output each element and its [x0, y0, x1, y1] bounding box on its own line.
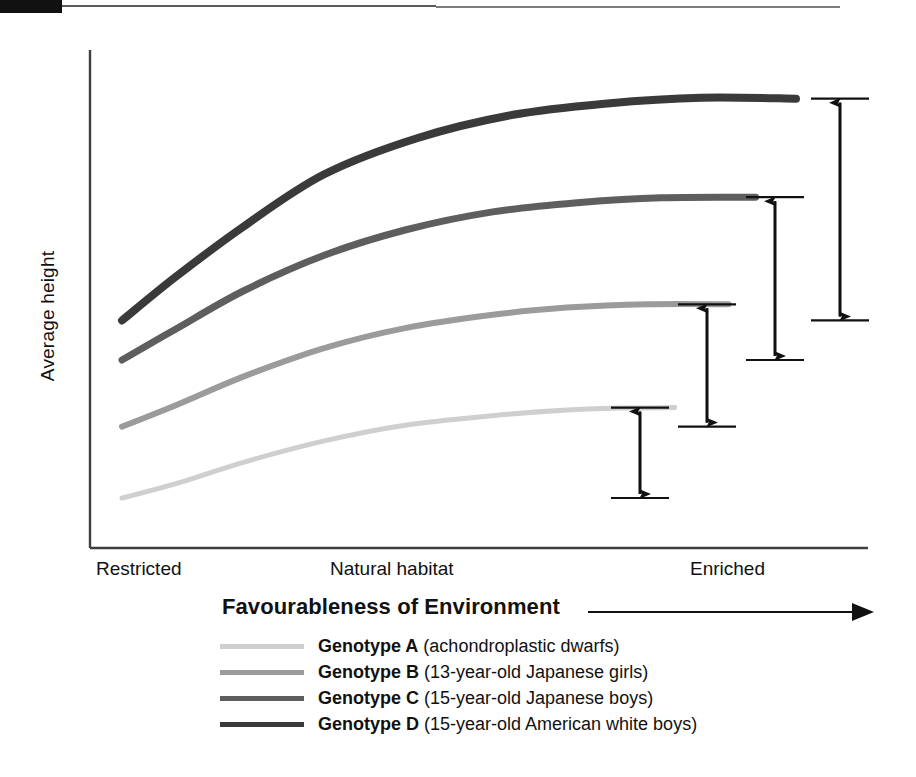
range-genotype-D	[811, 99, 869, 321]
legend-series-name: Genotype C	[318, 688, 419, 708]
x-axis-arrow-icon	[588, 603, 874, 621]
legend-swatch-icon	[220, 644, 304, 649]
range-annotation-layer	[611, 99, 869, 498]
chart-page: Average height Restricted Natural habita…	[0, 0, 916, 777]
range-genotype-B	[678, 304, 736, 426]
series-line-genotype-c	[122, 197, 756, 360]
legend-swatch-icon	[220, 696, 304, 701]
legend-swatch-icon	[220, 670, 304, 675]
legend-label: Genotype B (13-year-old Japanese girls)	[318, 662, 648, 683]
legend-series-name: Genotype D	[318, 714, 419, 734]
legend-series-description: (15-year-old Japanese boys)	[419, 688, 653, 708]
legend-item-genotype-c: Genotype C (15-year-old Japanese boys)	[220, 686, 860, 710]
legend-label: Genotype A (achondroplastic dwarfs)	[318, 636, 619, 657]
legend-label: Genotype D (15-year-old American white b…	[318, 714, 697, 735]
range-genotype-A	[611, 408, 669, 498]
series-line-genotype-a	[122, 408, 675, 498]
legend-series-name: Genotype A	[318, 636, 418, 656]
legend-item-genotype-d: Genotype D (15-year-old American white b…	[220, 712, 860, 736]
series-layer	[122, 97, 796, 498]
legend-label: Genotype C (15-year-old Japanese boys)	[318, 688, 653, 709]
legend-series-description: (13-year-old Japanese girls)	[419, 662, 648, 682]
legend-item-genotype-a: Genotype A (achondroplastic dwarfs)	[220, 634, 860, 658]
legend-series-description: (15-year-old American white boys)	[419, 714, 697, 734]
legend-series-description: (achondroplastic dwarfs)	[418, 636, 619, 656]
legend-item-genotype-b: Genotype B (13-year-old Japanese girls)	[220, 660, 860, 684]
x-tick-label-natural-habitat: Natural habitat	[330, 558, 454, 580]
y-axis-label: Average height	[37, 206, 59, 426]
chart-legend: Genotype A (achondroplastic dwarfs)Genot…	[220, 634, 860, 738]
x-axis-title: Favourableness of Environment	[222, 594, 560, 620]
x-tick-label-enriched: Enriched	[690, 558, 765, 580]
series-line-genotype-d	[122, 97, 796, 320]
range-genotype-C	[746, 197, 804, 360]
legend-swatch-icon	[220, 722, 304, 727]
legend-series-name: Genotype B	[318, 662, 419, 682]
x-tick-label-restricted: Restricted	[96, 558, 182, 580]
